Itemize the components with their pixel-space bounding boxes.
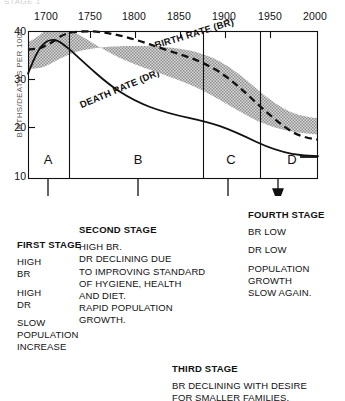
- arrow-third-stage: [223, 179, 233, 196]
- callout-arrows: [43, 179, 283, 196]
- note-first-stage-line-2: HIGH DR: [17, 287, 85, 311]
- note-second-stage-title: SECOND STAGE: [79, 224, 207, 235]
- natural-increase-shaded-band: [28, 27, 318, 134]
- note-third-stage-title: THIRD STAGE: [172, 363, 342, 374]
- note-fourth-stage: FOURTH STAGE BR LOW DR LOW POPULATION GR…: [248, 209, 343, 299]
- note-first-stage: FIRST STAGE HIGH BR HIGH DR SLOW POPULAT…: [17, 239, 85, 353]
- arrow-second-stage: [133, 179, 143, 196]
- note-second-stage: SECOND STAGE HIGH BR. DR DECLINING DUE T…: [79, 224, 207, 326]
- note-fourth-stage-line-1: BR LOW: [248, 226, 343, 238]
- note-first-stage-line-1: HIGH BR: [17, 256, 85, 280]
- note-fourth-stage-line-2: DR LOW: [248, 244, 343, 256]
- demographic-transition-chart: STAGE 1 BIRTHS/DEATHS PER 1000 1700 1750…: [0, 0, 345, 196]
- chart-plot-svg: [0, 0, 345, 196]
- diagram-root: STAGE 1 BIRTHS/DEATHS PER 1000 1700 1750…: [0, 0, 345, 401]
- note-fourth-stage-line-3: POPULATION GROWTH SLOW AGAIN.: [248, 263, 343, 299]
- note-first-stage-title: FIRST STAGE: [17, 239, 85, 250]
- arrow-first-stage: [43, 179, 53, 196]
- note-third-stage: THIRD STAGE BR DECLINING WITH DESIRE FOR…: [172, 363, 342, 401]
- note-third-stage-body: BR DECLINING WITH DESIRE FOR SMALLER FAM…: [172, 380, 342, 401]
- note-first-stage-line-3: SLOW POPULATION INCREASE: [17, 317, 85, 353]
- arrow-fourth-stage: [273, 179, 283, 196]
- note-second-stage-body: HIGH BR. DR DECLINING DUE TO IMPROVING S…: [79, 241, 207, 326]
- note-fourth-stage-title: FOURTH STAGE: [248, 209, 343, 220]
